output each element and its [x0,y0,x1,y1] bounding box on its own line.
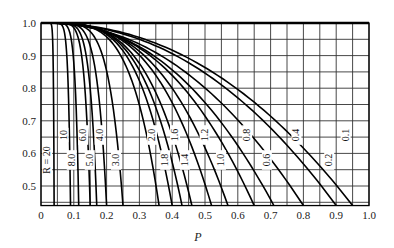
svg-text:3.0: 3.0 [110,154,121,167]
curve-label: 3.0 [110,150,121,170]
x-tick-label: 0.2 [100,209,114,221]
x-tick-label: 0.1 [67,209,81,221]
curve-label: 1.0 [215,150,226,170]
svg-text:0.8: 0.8 [241,129,252,142]
x-axis-label: P [193,230,202,244]
y-tick-label: 0.8 [22,82,36,94]
x-tick-label: 0.4 [165,209,179,221]
x-tick-label: 0.6 [231,209,245,221]
curve-r-0.1 [41,23,353,206]
svg-text:1.8: 1.8 [159,154,170,167]
x-tick-label: 0.3 [133,209,147,221]
svg-text:6.0: 6.0 [77,129,88,142]
curve-r-6.0 [41,23,90,206]
curve-r-R20 [41,23,54,206]
curve-label: 10 [58,128,69,142]
y-tick-label: 0.7 [22,115,36,127]
curve-label: 4.0 [94,125,105,145]
svg-text:0.1: 0.1 [340,129,351,142]
svg-text:1.0: 1.0 [215,154,226,167]
x-tick-label: 0 [38,209,44,221]
curve-r-8.0 [41,23,79,206]
svg-text:1.2: 1.2 [199,129,210,142]
svg-text:8.0: 8.0 [66,154,77,167]
x-tick-label: 0.9 [329,209,343,221]
svg-text:1.4: 1.4 [179,154,190,167]
curve-label: 2.0 [146,125,157,145]
y-tick-label: 1.0 [22,17,36,29]
curve-label: 0.1 [340,125,351,145]
x-tick-label: 0.8 [297,209,311,221]
x-tick-label: 0.7 [264,209,278,221]
curve-label: 1.2 [199,125,210,145]
x-tick-label: 1.0 [362,209,376,221]
y-tick-label: 0.5 [22,180,36,192]
curve-label: 1.8 [159,150,170,170]
curve-label: 1.6 [169,125,180,145]
svg-text:4.0: 4.0 [94,129,105,142]
svg-text:0.2: 0.2 [323,154,334,167]
curve-label: 0.4 [290,125,301,145]
curve-label: 0.8 [241,125,252,145]
axes: 00.10.20.30.40.50.60.70.80.91.00.50.60.7… [22,17,376,221]
curve-label: 0.2 [323,150,334,170]
svg-text:10: 10 [58,130,69,140]
y-tick-label: 0.6 [22,147,36,159]
curve-label: R = 20 [41,142,52,177]
curve-label: 1.4 [179,150,190,170]
svg-text:0.4: 0.4 [290,129,301,142]
chart-canvas: R = 20108.06.05.04.03.02.01.81.61.41.21.… [0,0,394,248]
svg-text:0.6: 0.6 [261,154,272,167]
curve-r-1.6 [41,23,182,206]
grid-lines [41,23,369,206]
curve-r-10 [41,23,71,206]
curve-label: 0.6 [261,150,272,170]
svg-text:2.0: 2.0 [146,129,157,142]
svg-text:R = 20: R = 20 [41,146,52,173]
curve-label: 5.0 [84,150,95,170]
curve-r-1.4 [41,23,192,206]
svg-text:5.0: 5.0 [84,154,95,167]
curve-label: 8.0 [66,150,77,170]
curve-label: 6.0 [77,125,88,145]
curve-family [41,23,353,206]
svg-text:1.6: 1.6 [169,129,180,142]
y-tick-label: 0.9 [22,50,36,62]
x-tick-label: 0.5 [198,209,212,221]
